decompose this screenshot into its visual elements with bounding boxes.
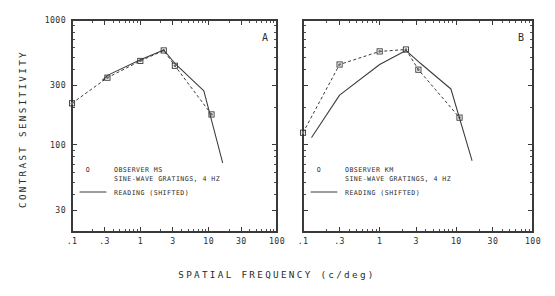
x-tick-label: 100 bbox=[525, 236, 541, 246]
series-observer-data bbox=[72, 50, 212, 114]
x-tick-label: 30 bbox=[236, 236, 247, 246]
y-tick-label: 300 bbox=[50, 80, 66, 90]
figure-root: CONTRAST SENSITIVITY SPATIAL FREQUENCY (… bbox=[0, 0, 555, 296]
x-tick-label: 100 bbox=[269, 236, 285, 246]
legend-marker-symbol: O bbox=[317, 166, 321, 174]
panel-a: .1.3131030100301003001000AOOBSERVER MSSI… bbox=[45, 15, 285, 246]
legend-stimulus-label: SINE-WAVE GRATINGS, 4 HZ bbox=[345, 175, 451, 183]
panels-layer: .1.3131030100301003001000AOOBSERVER MSSI… bbox=[45, 15, 541, 246]
x-axis-title: SPATIAL FREQUENCY (c/deg) bbox=[178, 269, 375, 280]
x-tick-label: .1 bbox=[67, 236, 78, 246]
series-reading-shifted bbox=[103, 50, 223, 163]
legend-reading-label: READING (SHIFTED) bbox=[114, 189, 189, 197]
y-axis-ticks bbox=[303, 20, 533, 232]
data-point-marker bbox=[337, 62, 342, 67]
legend-marker-symbol: O bbox=[86, 166, 90, 174]
legend-observer-label: OBSERVER MS bbox=[114, 166, 163, 174]
x-axis-ticks bbox=[303, 20, 533, 232]
y-tick-label: 30 bbox=[55, 205, 66, 215]
legend-reading-label: READING (SHIFTED) bbox=[345, 189, 420, 197]
x-tick-label: 1 bbox=[377, 236, 382, 246]
x-tick-label: 3 bbox=[170, 236, 175, 246]
contrast-sensitivity-figure: CONTRAST SENSITIVITY SPATIAL FREQUENCY (… bbox=[0, 0, 555, 296]
series-reading-shifted bbox=[312, 50, 472, 160]
x-tick-label: .3 bbox=[334, 236, 345, 246]
x-tick-label: .1 bbox=[298, 236, 309, 246]
y-tick-label: 100 bbox=[50, 140, 66, 150]
panel-b: .1.3131030100BOOBSERVER KMSINE-WAVE GRAT… bbox=[298, 20, 541, 246]
legend-stimulus-label: SINE-WAVE GRATINGS, 4 HZ bbox=[114, 175, 220, 183]
x-tick-label: .3 bbox=[99, 236, 110, 246]
plot-frame bbox=[72, 20, 277, 232]
y-axis-ticks bbox=[72, 20, 277, 232]
panel-letter: A bbox=[262, 32, 268, 43]
x-tick-label: 10 bbox=[451, 236, 462, 246]
legend-observer-label: OBSERVER KM bbox=[345, 166, 394, 174]
y-tick-label: 1000 bbox=[45, 15, 66, 25]
plot-frame bbox=[303, 20, 533, 232]
x-tick-label: 10 bbox=[203, 236, 214, 246]
panel-letter: B bbox=[518, 32, 524, 43]
data-point-marker bbox=[416, 67, 421, 72]
x-tick-label: 3 bbox=[414, 236, 419, 246]
x-tick-label: 30 bbox=[488, 236, 499, 246]
y-axis-title: CONTRAST SENSITIVITY bbox=[17, 50, 28, 208]
x-tick-label: 1 bbox=[138, 236, 143, 246]
series-observer-data bbox=[303, 50, 460, 133]
x-axis-ticks bbox=[72, 20, 277, 232]
